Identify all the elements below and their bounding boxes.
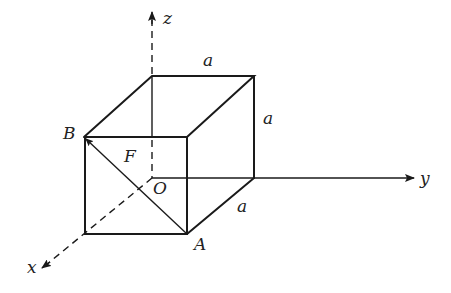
edge-label-right: a	[263, 108, 273, 128]
x-axis-label: x	[27, 257, 37, 277]
origin-label: O	[153, 178, 167, 198]
point-F-label: F	[123, 146, 137, 166]
edge-label-top: a	[203, 50, 213, 70]
point-B-label: B	[62, 123, 76, 143]
edge-label-bottom: a	[237, 196, 247, 216]
x-axis	[46, 178, 152, 265]
y-axis-label: y	[419, 168, 430, 188]
cube-diagram: z y x B F O A a a a	[0, 0, 451, 293]
x-axis-arrow	[42, 262, 50, 268]
point-A-label: A	[192, 234, 206, 254]
z-axis-label: z	[162, 8, 173, 28]
cube-top-face	[84, 76, 254, 137]
